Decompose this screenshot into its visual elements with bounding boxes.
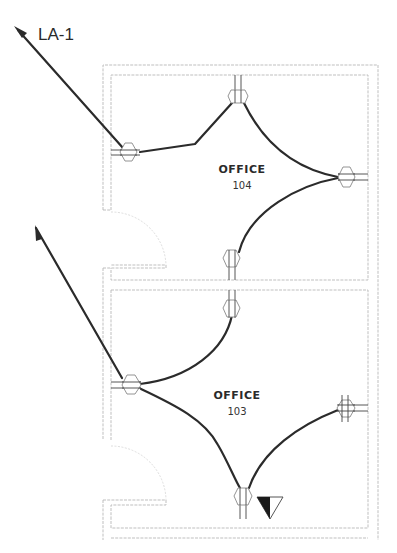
outer-wall [103, 65, 378, 540]
wire-103-left-bottom [141, 389, 240, 488]
receptacle-104-left[interactable] [111, 143, 140, 161]
door-swing-103 [111, 446, 166, 500]
wiring [18, 30, 338, 488]
walls [103, 65, 378, 540]
wire-103-left-top [140, 315, 232, 384]
floor-plan: LA-1 OFFICE 104 OFFICE 103 [0, 0, 397, 553]
door-stub-104 [103, 210, 166, 268]
arrow-icon-103 [35, 225, 42, 241]
tel-data-outlet-103[interactable] [257, 497, 283, 519]
home-run-la-1 [18, 30, 123, 148]
door-swing-104 [111, 212, 166, 265]
home-run-103 [36, 228, 122, 378]
arrow-icon-la-1 [14, 26, 27, 38]
receptacle-104-bottom[interactable] [223, 250, 240, 280]
room-number-103: 103 [227, 406, 246, 417]
receptacle-103-bottom[interactable] [234, 488, 252, 519]
door-stub-103 [103, 500, 166, 518]
receptacle-104-top[interactable] [228, 75, 248, 103]
wire-104-right-bottom [239, 178, 338, 252]
receptacle-104-right[interactable] [338, 167, 368, 187]
room-number-104: 104 [232, 180, 251, 191]
quad-receptacle-103-right[interactable] [337, 395, 368, 422]
room-name-103: OFFICE [213, 389, 260, 402]
room-name-104: OFFICE [218, 163, 265, 176]
receptacle-103-left[interactable] [111, 375, 141, 394]
panel-label: LA-1 [38, 25, 74, 44]
door-swings [111, 212, 166, 500]
receptacle-103-top[interactable] [223, 290, 240, 318]
wire-104-left-top [140, 103, 232, 152]
home-run-arrows [14, 26, 42, 241]
wire-103-bottom-right [249, 410, 338, 488]
